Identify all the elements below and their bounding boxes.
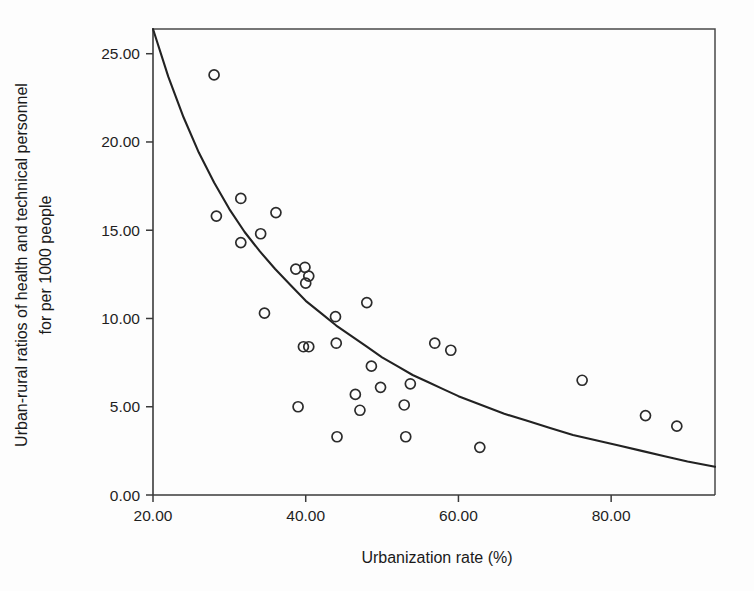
data-point xyxy=(355,405,365,415)
data-point xyxy=(405,379,415,389)
x-tick-label: 40.00 xyxy=(286,507,325,524)
y-tick-label: 0.00 xyxy=(110,487,141,504)
data-point xyxy=(236,193,246,203)
x-tick-label: 60.00 xyxy=(439,507,478,524)
data-point xyxy=(331,338,341,348)
x-tick-label: 20.00 xyxy=(134,507,173,524)
data-point xyxy=(399,400,409,410)
x-axis-title: Urbanization rate (%) xyxy=(361,549,512,566)
y-axis-ticks: 0.005.0010.0015.0020.0025.00 xyxy=(101,45,153,503)
data-point xyxy=(672,421,682,431)
y-tick-label: 20.00 xyxy=(101,133,140,150)
scatter-chart-figure: 0.005.0010.0015.0020.0025.00 20.0040.006… xyxy=(0,0,754,591)
data-point xyxy=(475,442,485,452)
data-point xyxy=(350,389,360,399)
data-point xyxy=(641,411,651,421)
data-point xyxy=(256,229,266,239)
y-tick-label: 15.00 xyxy=(101,222,140,239)
data-point xyxy=(331,312,341,322)
data-point xyxy=(577,375,587,385)
x-axis-ticks: 20.0040.0060.0080.00 xyxy=(134,495,631,524)
y-axis-title-line1: Urban-rural ratios of health and technic… xyxy=(13,83,30,447)
trend-curve xyxy=(153,29,715,467)
y-tick-label: 10.00 xyxy=(101,310,140,327)
chart-canvas: 0.005.0010.0015.0020.0025.00 20.0040.006… xyxy=(0,0,754,591)
data-point xyxy=(376,382,386,392)
data-point xyxy=(291,264,301,274)
plot-frame xyxy=(153,29,715,495)
data-point xyxy=(446,345,456,355)
y-tick-label: 5.00 xyxy=(110,398,141,415)
data-point xyxy=(271,208,281,218)
data-point xyxy=(293,402,303,412)
data-point xyxy=(236,238,246,248)
data-point xyxy=(366,361,376,371)
x-tick-label: 80.00 xyxy=(592,507,631,524)
data-point xyxy=(211,211,221,221)
data-point-group xyxy=(209,70,682,452)
data-point xyxy=(362,298,372,308)
y-axis-title-line2: for per 1000 people xyxy=(37,196,54,335)
data-point xyxy=(430,338,440,348)
data-point xyxy=(259,308,269,318)
data-point xyxy=(209,70,219,80)
data-point xyxy=(401,432,411,442)
y-tick-label: 25.00 xyxy=(101,45,140,62)
data-point xyxy=(332,432,342,442)
